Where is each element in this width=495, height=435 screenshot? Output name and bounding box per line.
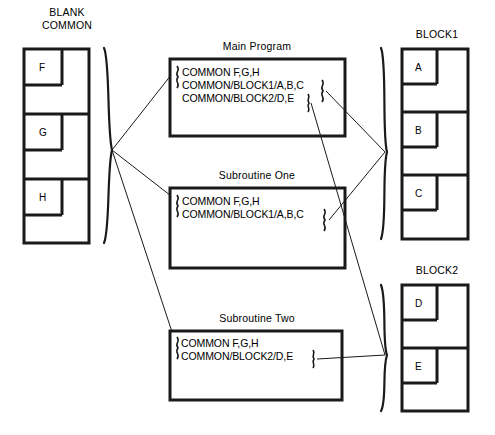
main-program-line-2: COMMON/BLOCK1/A,B,C — [182, 79, 304, 91]
blank-common-connector-lines — [112, 70, 175, 341]
main-program-box: COMMON F,G,H COMMON/BLOCK1/A,B,C COMMON/… — [170, 59, 345, 136]
blank-common-title-line1: BLANK — [49, 6, 84, 18]
blank-common-brace — [104, 48, 112, 243]
subroutine-one-line-2: COMMON/BLOCK1/A,B,C — [182, 208, 304, 220]
main-program-line-3: COMMON/BLOCK2/D,E — [182, 92, 294, 104]
subroutine-two-title: Subroutine Two — [219, 312, 295, 324]
main-program-title: Main Program — [223, 40, 291, 52]
block1-brace — [381, 48, 387, 239]
block1-title: BLOCK1 — [416, 28, 459, 40]
block2-title: BLOCK2 — [416, 264, 459, 276]
block2-cell-e-label: E — [415, 361, 422, 372]
block1-cell-b-label: B — [415, 125, 422, 136]
block1-cell-a-label: A — [415, 62, 422, 73]
block1-cell-c-label: C — [415, 188, 422, 199]
blank-common-cell-f-label: F — [39, 62, 45, 73]
block1-memory-box: A B C — [402, 49, 468, 239]
blank-common-title-line2: COMMON — [42, 19, 92, 31]
blank-common-memory-box: F G H — [24, 49, 89, 243]
common-block-diagram: BLANK COMMON F G H Main — [0, 0, 495, 435]
block2-brace — [381, 285, 387, 411]
block2-cell-d-label: D — [415, 298, 422, 309]
subroutine-one-title: Subroutine One — [219, 169, 295, 181]
main-program-line-1: COMMON F,G,H — [182, 66, 260, 78]
blank-common-cell-h-label: H — [39, 192, 46, 203]
main-program-block2-brace — [308, 94, 309, 112]
subroutine-two-line-1: COMMON F,G,H — [181, 337, 259, 349]
subroutine-two-block2-brace — [313, 350, 314, 368]
subroutine-two-line-2: COMMON/BLOCK2/D,E — [181, 350, 293, 362]
block2-memory-box: D E — [402, 285, 468, 411]
subroutine-one-box: COMMON F,G,H COMMON/BLOCK1/A,B,C — [170, 188, 345, 268]
blank-common-cell-g-label: G — [39, 127, 47, 138]
subroutine-two-box: COMMON F,G,H COMMON/BLOCK2/D,E — [170, 331, 342, 400]
subroutine-one-line-1: COMMON F,G,H — [182, 195, 260, 207]
